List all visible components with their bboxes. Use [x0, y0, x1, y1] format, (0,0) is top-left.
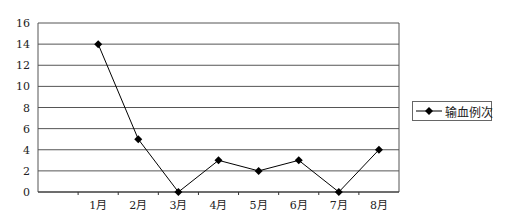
y-tick-label: 12: [16, 59, 30, 72]
x-axis-ticks: 1月2月3月4月5月6月7月8月: [78, 192, 388, 212]
y-tick-label: 10: [16, 80, 30, 93]
data-point-diamond-icon: [255, 167, 263, 175]
y-tick-label: 4: [23, 144, 30, 157]
y-axis-ticks: 0246810121416: [16, 17, 30, 199]
x-tick-label: 8月: [370, 199, 388, 212]
y-tick-label: 6: [23, 123, 30, 136]
data-point-diamond-icon: [134, 135, 142, 143]
series-line: [94, 40, 383, 196]
y-tick-label: 0: [23, 186, 30, 199]
legend: 输血例次: [412, 101, 492, 121]
x-tick-label: 1月: [89, 199, 107, 212]
data-line: [98, 44, 379, 192]
x-tick-label: 6月: [290, 199, 308, 212]
x-tick-label: 7月: [330, 199, 348, 212]
x-tick-label: 5月: [250, 199, 268, 212]
legend-label: 输血例次: [445, 103, 493, 120]
gridlines: [38, 23, 399, 192]
x-tick-label: 3月: [169, 199, 187, 212]
legend-diamond-marker-icon: [416, 105, 442, 117]
data-point-diamond-icon: [94, 40, 102, 48]
y-tick-label: 16: [16, 17, 30, 30]
y-tick-label: 14: [16, 38, 30, 51]
y-tick-label: 8: [23, 102, 30, 115]
x-tick-label: 4月: [210, 199, 228, 212]
x-tick-label: 2月: [129, 199, 147, 212]
y-tick-label: 2: [23, 165, 30, 178]
